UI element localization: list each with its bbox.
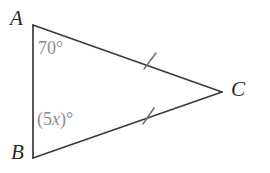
angle-label-a: 70° [38, 39, 63, 57]
side-AC [33, 25, 222, 92]
vertex-label-c: C [231, 79, 245, 100]
triangle-figure: A B C 70° (5x)° [0, 0, 270, 173]
angle-label-b-prefix: (5 [37, 109, 52, 129]
vertex-label-a: A [10, 8, 23, 29]
vertex-label-b: B [11, 142, 24, 163]
angle-label-b-variable: x [52, 109, 60, 129]
angle-label-b-suffix: )° [60, 109, 73, 129]
angle-label-b: (5x)° [37, 110, 73, 128]
geometry-canvas [0, 0, 270, 173]
